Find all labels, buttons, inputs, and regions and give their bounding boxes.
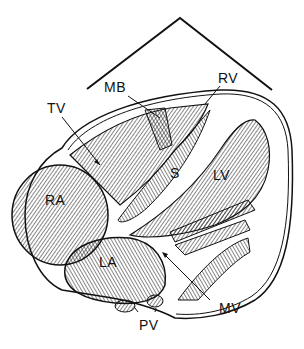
pulmonary-vein-2 [147,295,163,307]
label-mb: MB [104,80,126,94]
pv-pointer-1 [135,308,138,312]
label-pv: PV [139,318,159,332]
left-atrium [65,237,166,303]
label-s: S [170,166,180,180]
label-lv: LV [213,168,230,182]
pulmonary-vein-1 [115,300,135,312]
heart-diagram [0,0,304,349]
label-rv: RV [218,71,238,85]
pv-pointer-2 [155,308,156,312]
label-la: LA [99,255,117,269]
label-tv: TV [47,101,66,115]
label-ra: RA [45,193,65,207]
label-mv: MV [219,301,241,315]
